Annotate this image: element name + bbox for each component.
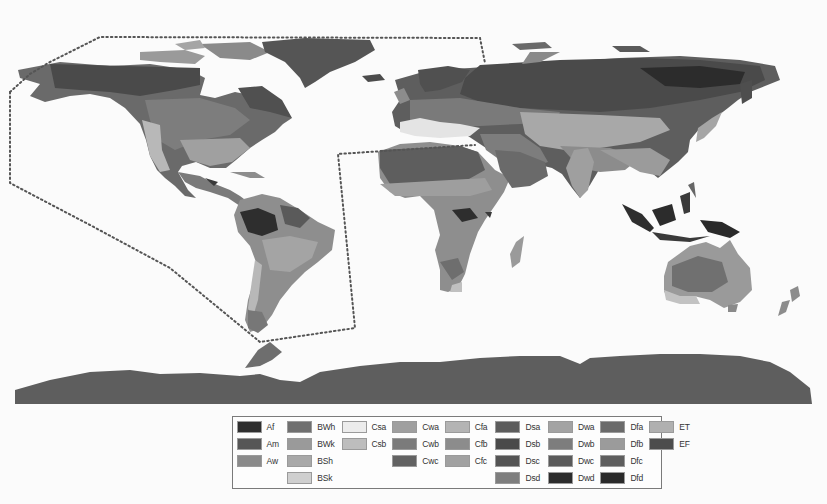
legend-swatch xyxy=(287,421,312,433)
legend-swatch xyxy=(392,455,417,467)
legend-item-bwh: BWh xyxy=(287,420,335,434)
legend-label: Aw xyxy=(267,456,278,466)
legend-item-dsc: Dsc xyxy=(495,454,539,468)
legend-label: Cwc xyxy=(422,456,438,466)
legend-label: Cwb xyxy=(422,439,438,449)
africa xyxy=(378,142,548,292)
legend-label: Dsa xyxy=(525,422,540,432)
legend-item-dfc: Dfc xyxy=(600,454,642,468)
legend-swatch xyxy=(548,438,573,450)
climate-legend: AfAmAwBWhBWkBShBSkCsaCsbCwaCwbCwcCfaCfbC… xyxy=(232,416,662,489)
legend-label: Dfa xyxy=(630,422,643,432)
legend-swatch xyxy=(445,438,470,450)
legend-label: Dsb xyxy=(525,439,540,449)
legend-swatch xyxy=(445,455,470,467)
legend-swatch xyxy=(287,455,312,467)
legend-swatch xyxy=(649,421,674,433)
legend-label: EF xyxy=(679,439,689,449)
legend-item-cfb: Cfb xyxy=(445,437,488,451)
legend-label: Cwa xyxy=(422,422,438,432)
legend-label: BSh xyxy=(317,456,332,466)
legend-swatch xyxy=(342,438,367,450)
legend-item-dwc: Dwc xyxy=(548,454,594,468)
legend-label: Cfc xyxy=(475,456,487,466)
legend-item-cwb: Cwb xyxy=(392,437,438,451)
australia xyxy=(664,240,800,316)
legend-swatch xyxy=(392,438,417,450)
legend-swatch xyxy=(649,438,674,450)
legend-item-cfc: Cfc xyxy=(445,454,487,468)
legend-label: Csb xyxy=(372,439,387,449)
legend-swatch xyxy=(237,455,262,467)
legend-item-bwk: BWk xyxy=(287,437,334,451)
legend-label: Am xyxy=(267,439,279,449)
legend-swatch xyxy=(342,421,367,433)
south-america xyxy=(234,194,335,333)
legend-swatch xyxy=(548,472,573,484)
legend-label: Csa xyxy=(372,422,387,432)
legend-label: BSk xyxy=(317,473,332,483)
legend-item-am: Am xyxy=(237,437,279,451)
legend-item-dwb: Dwb xyxy=(548,437,594,451)
legend-swatch xyxy=(600,455,625,467)
legend-item-cwa: Cwa xyxy=(392,420,438,434)
legend-swatch xyxy=(600,472,625,484)
legend-item-dfd: Dfd xyxy=(600,471,643,485)
legend-swatch xyxy=(237,438,262,450)
legend-swatch xyxy=(548,421,573,433)
legend-item-af: Af xyxy=(237,420,275,434)
legend-swatch xyxy=(287,472,312,484)
legend-swatch xyxy=(495,421,520,433)
legend-label: Dwb xyxy=(578,439,594,449)
legend-item-dwd: Dwd xyxy=(548,471,594,485)
legend-swatch xyxy=(495,455,520,467)
north-america xyxy=(18,38,385,206)
legend-item-ef: EF xyxy=(649,437,689,451)
legend-swatch xyxy=(287,438,312,450)
legend-item-dsb: Dsb xyxy=(495,437,540,451)
legend-item-cfa: Cfa xyxy=(445,420,488,434)
legend-item-dsa: Dsa xyxy=(495,420,540,434)
legend-label: Dwd xyxy=(578,473,594,483)
legend-label: Dwa xyxy=(578,422,594,432)
legend-label: ET xyxy=(679,422,689,432)
legend-item-cwc: Cwc xyxy=(392,454,438,468)
legend-label: BWh xyxy=(317,422,335,432)
legend-item-dfb: Dfb xyxy=(600,437,643,451)
legend-label: Dfc xyxy=(630,456,642,466)
legend-label: Dsc xyxy=(525,456,539,466)
legend-swatch xyxy=(600,438,625,450)
legend-label: BWk xyxy=(317,439,334,449)
legend-label: Dfd xyxy=(630,473,643,483)
legend-item-dsd: Dsd xyxy=(495,471,540,485)
legend-swatch xyxy=(495,438,520,450)
legend-label: Dfb xyxy=(630,439,643,449)
legend-item-aw: Aw xyxy=(237,454,278,468)
antarctica xyxy=(15,342,812,404)
legend-item-bsk: BSk xyxy=(287,471,332,485)
legend-item-csb: Csb xyxy=(342,437,387,451)
legend-swatch xyxy=(495,472,520,484)
legend-label: Af xyxy=(267,422,275,432)
legend-swatch xyxy=(392,421,417,433)
legend-item-bsh: BSh xyxy=(287,454,332,468)
maritime-southeast-asia xyxy=(622,182,740,242)
legend-label: Cfa xyxy=(475,422,488,432)
legend-label: Cfb xyxy=(475,439,488,449)
legend-swatch xyxy=(445,421,470,433)
legend-swatch xyxy=(237,421,262,433)
legend-label: Dsd xyxy=(525,473,540,483)
legend-swatch xyxy=(548,455,573,467)
legend-item-et: ET xyxy=(649,420,689,434)
legend-item-csa: Csa xyxy=(342,420,387,434)
legend-swatch xyxy=(600,421,625,433)
world-climate-map xyxy=(0,0,827,410)
legend-label: Dwc xyxy=(578,456,594,466)
legend-item-dfa: Dfa xyxy=(600,420,643,434)
legend-item-dwa: Dwa xyxy=(548,420,594,434)
